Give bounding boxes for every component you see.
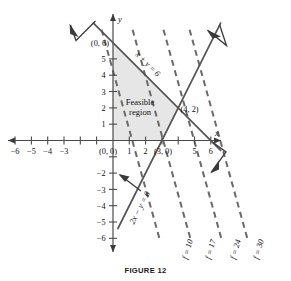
y-tick-label-5: 5	[101, 55, 105, 64]
feasible-region-label-line2: region	[129, 107, 152, 117]
x-tick-label--4: −4	[43, 147, 52, 156]
x-axis-label: x	[214, 128, 219, 138]
y-axis-bottom-arrowhead	[110, 245, 116, 252]
objective-label-f10: f = 10	[181, 238, 195, 260]
y-tick-label--4: −4	[97, 202, 106, 211]
x-tick-label-1: 1	[127, 147, 131, 156]
y-axis-top-arrowhead	[110, 14, 116, 21]
x-tick-label-6: 6	[209, 147, 213, 156]
y-tick-label--3: −3	[97, 186, 106, 195]
y-tick-label--2: −2	[97, 169, 106, 178]
x-tick-label-2: 2	[144, 147, 148, 156]
constraint-1-direction-arrowhead	[70, 24, 79, 38]
point-label-3-0: (3, 0)	[154, 147, 172, 156]
constraint-label-2x-minus-y: 2x − y = 6	[128, 189, 152, 225]
x-tick-label--3: −3	[60, 147, 69, 156]
point-label-origin: (0, 0)	[99, 147, 117, 156]
x-tick-label-5: 5	[192, 147, 196, 156]
point-label-4-2: (4, 2)	[181, 105, 199, 114]
constraint-2-direction-arrowhead-top	[207, 30, 222, 39]
objective-label-f17: f = 17	[204, 238, 218, 261]
objective-line-f24	[164, 30, 223, 242]
y-tick-label--6: −6	[97, 234, 106, 243]
objective-label-f24: f = 24	[229, 238, 243, 260]
y-tick-label--5: −5	[97, 218, 106, 227]
x-tick-label--5: −5	[27, 147, 36, 156]
figure-caption: FIGURE 12	[0, 266, 291, 281]
feasible-region-label-line1: Feasible	[126, 97, 155, 107]
y-axis-label: y	[117, 14, 122, 24]
y-tick-label-1: 1	[101, 120, 105, 129]
point-label-0-6: (0, 6)	[91, 39, 109, 48]
linear-programming-plot: −6 −5 −4 −3 1 2 5 6 5 4 3 2 1 −2 −3 −4 −…	[0, 0, 291, 281]
objective-label-f30: f = 30	[252, 238, 266, 260]
y-tick-label-2: 2	[101, 104, 105, 113]
x-tick-label--6: −6	[11, 147, 20, 156]
y-tick-label-3: 3	[101, 88, 105, 97]
y-tick-label-4: 4	[101, 71, 105, 80]
figure-container: −6 −5 −4 −3 1 2 5 6 5 4 3 2 1 −2 −3 −4 −…	[0, 0, 291, 281]
objective-line-f30	[190, 30, 249, 242]
x-axis-left-arrowhead	[8, 138, 15, 144]
